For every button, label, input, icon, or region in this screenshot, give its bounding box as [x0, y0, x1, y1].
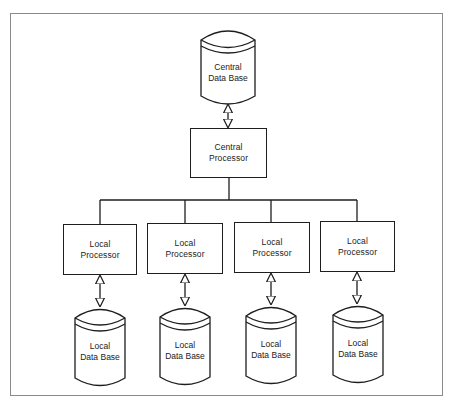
central-processor-line2: Processor: [209, 153, 248, 164]
local-database-line2: Data Base: [160, 351, 210, 362]
local-processor-line1: Local: [347, 236, 368, 247]
local-database-label-3: Local Data Base: [246, 339, 296, 361]
local-database-label-4: Local Data Base: [333, 338, 383, 360]
local-processor-line2: Processor: [338, 247, 377, 258]
local-link-arrows: [100, 273, 357, 306]
central-processor-box: Central Processor: [190, 128, 267, 178]
diagram-canvas: [0, 0, 454, 405]
local-processor-line2: Processor: [252, 248, 291, 259]
central-database-line1: Central: [201, 62, 255, 73]
local-database-line1: Local: [75, 341, 125, 352]
local-processor-line1: Local: [175, 238, 196, 249]
central-database-label: Central Data Base: [201, 62, 255, 84]
local-database-label-1: Local Data Base: [75, 341, 125, 363]
local-processor-line2: Processor: [80, 250, 119, 261]
local-database-line1: Local: [246, 339, 296, 350]
central-processor-line1: Central: [214, 142, 242, 153]
local-database-line2: Data Base: [75, 352, 125, 363]
local-processor-box-2: Local Processor: [147, 223, 223, 274]
local-processor-line2: Processor: [165, 249, 204, 260]
local-database-line1: Local: [160, 340, 210, 351]
local-database-line2: Data Base: [246, 350, 296, 361]
local-processor-box-4: Local Processor: [320, 221, 395, 272]
central-database-line2: Data Base: [201, 73, 255, 84]
local-processor-line1: Local: [262, 237, 283, 248]
local-database-line2: Data Base: [333, 349, 383, 360]
local-processor-line1: Local: [90, 239, 111, 250]
local-processor-box-3: Local Processor: [234, 222, 310, 273]
local-database-line1: Local: [333, 338, 383, 349]
bus-lines: [100, 178, 357, 224]
local-processor-box-1: Local Processor: [63, 224, 137, 275]
local-database-label-2: Local Data Base: [160, 340, 210, 362]
